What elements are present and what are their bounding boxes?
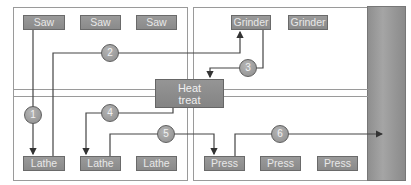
step-4-marker: 4 [101,104,119,122]
lathe-3: Lathe [136,156,177,171]
saw-1: Saw [23,15,65,30]
step-2-marker: 2 [101,44,119,62]
heat-treat-label-line1: Heat [156,82,223,94]
saw-2: Saw [80,15,121,30]
grinder-2: Grinder [288,15,328,30]
saw-3: Saw [136,15,177,30]
step-5-marker: 5 [157,125,175,143]
step-3-marker: 3 [239,59,257,77]
press-1: Press [204,156,245,171]
step-1-marker: 1 [24,106,42,124]
lathe-2: Lathe [80,156,121,171]
press-3: Press [317,156,358,171]
heat-treat-unit: Heat treat [155,79,224,108]
heat-treat-label-line2: treat [156,94,223,106]
lathe-1: Lathe [23,156,65,171]
press-2: Press [260,156,301,171]
step-6-marker: 6 [271,125,289,143]
grinder-1: Grinder [231,15,271,30]
